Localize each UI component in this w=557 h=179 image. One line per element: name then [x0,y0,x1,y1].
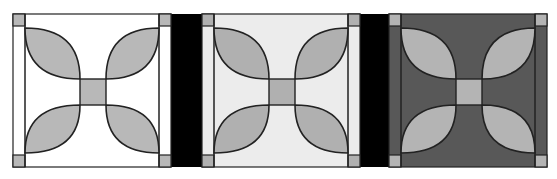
separator-bar-1 [171,14,202,167]
quilt-tile-light-colorway [13,14,171,167]
center-square [269,79,295,105]
corner-square [389,155,401,167]
center-square [456,79,482,105]
quilt-tile-pale-gray-colorway [202,14,360,167]
corner-square [13,155,25,167]
separator-bar-2 [360,14,389,167]
quilt-tile-dark-colorway [389,14,547,167]
corner-square [159,14,171,26]
quilt-blocks-diagram [0,0,557,179]
center-square [80,79,106,105]
corner-square [535,155,547,167]
corner-square [13,14,25,26]
corner-square [535,14,547,26]
corner-square [202,14,214,26]
corner-square [348,155,360,167]
corner-square [202,155,214,167]
corner-square [159,155,171,167]
corner-square [389,14,401,26]
corner-square [348,14,360,26]
